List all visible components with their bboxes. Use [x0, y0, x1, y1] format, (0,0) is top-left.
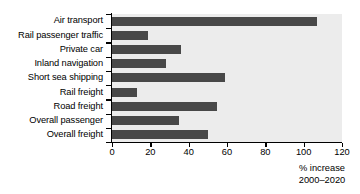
y-tick — [106, 42, 112, 43]
bar — [112, 73, 225, 82]
x-tick-label: 60 — [222, 148, 232, 157]
category-label: Private car — [0, 42, 108, 56]
axis-caption: % increase 2000–2020 — [284, 163, 360, 186]
y-tick — [106, 85, 112, 86]
bar-row — [112, 71, 342, 85]
y-tick — [106, 128, 112, 129]
category-label: Short sea shipping — [0, 71, 108, 85]
category-label: Road freight — [0, 99, 108, 113]
bar — [112, 88, 137, 97]
category-label: Air transport — [0, 14, 108, 28]
x-tick-label: 80 — [260, 148, 270, 157]
bar — [112, 102, 217, 111]
caption-line-1: % increase — [284, 163, 360, 175]
y-tick — [106, 99, 112, 100]
caption-line-2: 2000–2020 — [284, 175, 360, 187]
y-tick — [106, 57, 112, 58]
plot-area — [112, 14, 342, 142]
bar — [112, 130, 208, 139]
bar-row — [112, 128, 342, 142]
bar-row — [112, 42, 342, 56]
bar-row — [112, 114, 342, 128]
bar — [112, 17, 317, 26]
bar-row — [112, 28, 342, 42]
y-tick — [106, 28, 112, 29]
x-tick-label: 120 — [334, 148, 350, 157]
bar-chart: Air transport Rail passenger traffic Pri… — [0, 0, 360, 194]
x-tick-label: 20 — [145, 148, 155, 157]
category-axis-labels: Air transport Rail passenger traffic Pri… — [0, 14, 108, 142]
category-label: Rail freight — [0, 85, 108, 99]
bar-row — [112, 57, 342, 71]
category-label: Inland navigation — [0, 57, 108, 71]
x-tick-label: 40 — [183, 148, 193, 157]
category-label: Overall freight — [0, 128, 108, 142]
x-tick-label: 0 — [109, 148, 114, 157]
y-tick — [106, 71, 112, 72]
y-axis-line — [111, 13, 112, 143]
bar-series — [112, 14, 342, 142]
bar — [112, 116, 179, 125]
bar — [112, 45, 181, 54]
bar-row — [112, 14, 342, 28]
bar — [112, 31, 148, 40]
bar-row — [112, 85, 342, 99]
y-tick — [106, 114, 112, 115]
category-label: Overall passenger — [0, 114, 108, 128]
x-tick-label: 100 — [296, 148, 312, 157]
y-tick — [106, 14, 112, 15]
bar-row — [112, 99, 342, 113]
category-label: Rail passenger traffic — [0, 28, 108, 42]
bar — [112, 59, 166, 68]
